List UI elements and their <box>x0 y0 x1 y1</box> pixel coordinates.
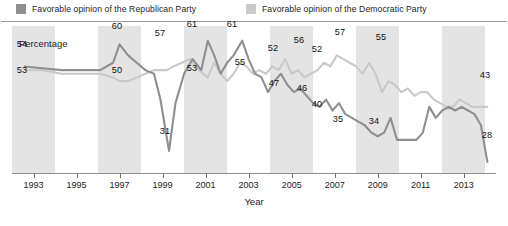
x-axis-tick-label: 2009 <box>368 180 388 190</box>
data-point-label: 54 <box>17 39 28 49</box>
data-point-label: 47 <box>269 78 280 88</box>
data-point-label: 46 <box>297 83 308 93</box>
data-point-label: 34 <box>369 116 380 126</box>
x-axis-tick-label: 2011 <box>411 180 430 190</box>
data-point-label: 40 <box>312 99 323 109</box>
x-axis-tick-label: 2007 <box>325 180 345 190</box>
line-democratic <box>25 55 487 106</box>
x-axis-tick <box>249 173 250 178</box>
x-axis-tick-label: 1993 <box>23 180 43 190</box>
plot-area <box>12 26 496 173</box>
x-axis-line <box>12 173 496 174</box>
data-point-label: 57 <box>335 27 346 37</box>
x-axis-tick-label: 2005 <box>282 180 302 190</box>
chart-legend: Favorable opinion of the Republican Part… <box>0 0 508 22</box>
chart-figure: Favorable opinion of the Republican Part… <box>0 0 508 226</box>
legend-label-republican: Favorable opinion of the Republican Part… <box>32 4 196 14</box>
data-point-label: 28 <box>482 130 493 140</box>
x-axis-tick <box>378 173 379 178</box>
data-point-label: 52 <box>312 44 323 54</box>
data-point-label: 43 <box>480 70 491 80</box>
data-point-label: 52 <box>268 43 279 53</box>
data-point-label: 53 <box>187 63 198 73</box>
data-point-label: 53 <box>17 65 28 75</box>
data-point-label: 55 <box>376 32 387 42</box>
data-point-label: 57 <box>155 28 166 38</box>
x-axis-tick-label: 1999 <box>153 180 173 190</box>
x-axis-tick <box>34 173 35 178</box>
x-axis-tick <box>77 173 78 178</box>
x-axis-tick <box>120 173 121 178</box>
x-axis-tick <box>464 173 465 178</box>
data-point-label: 35 <box>333 114 344 124</box>
x-axis-tick-label: 2013 <box>454 180 474 190</box>
x-axis-tick <box>206 173 207 178</box>
series-lines <box>12 26 496 173</box>
x-axis-title: Year <box>0 196 508 207</box>
legend-swatch-republican <box>16 4 26 14</box>
x-axis-tick-label: 1995 <box>67 180 87 190</box>
legend-item-democratic[interactable]: Favorable opinion of the Democratic Part… <box>246 4 427 14</box>
x-axis-tick <box>163 173 164 178</box>
data-point-label: 60 <box>112 21 123 31</box>
legend-item-republican[interactable]: Favorable opinion of the Republican Part… <box>16 4 196 14</box>
data-point-label: 31 <box>160 126 171 136</box>
legend-swatch-democratic <box>246 4 256 14</box>
data-point-label: 61 <box>187 19 198 29</box>
data-point-label: 55 <box>235 57 246 67</box>
x-axis-tick <box>292 173 293 178</box>
x-axis-tick-label: 1997 <box>110 180 130 190</box>
data-point-label: 56 <box>294 35 305 45</box>
x-axis-tick-label: 2001 <box>196 180 216 190</box>
legend-label-democratic: Favorable opinion of the Democratic Part… <box>262 4 427 14</box>
line-republican <box>25 41 487 162</box>
x-axis-tick <box>421 173 422 178</box>
data-point-label: 50 <box>112 65 123 75</box>
x-axis-tick <box>335 173 336 178</box>
data-point-label: 61 <box>227 19 238 29</box>
x-axis-tick-label: 2003 <box>239 180 259 190</box>
